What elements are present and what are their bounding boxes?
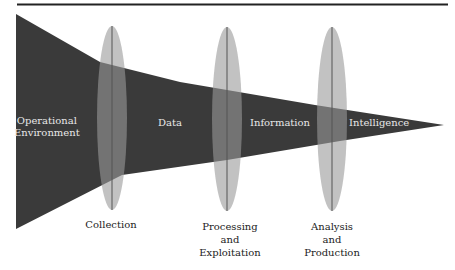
process-label-collection: Collection (85, 218, 136, 231)
process-label-line: Production (304, 246, 360, 259)
process-label-line: Analysis (304, 220, 360, 233)
stage-label-intelligence: Intelligence (349, 117, 409, 129)
lens-processing-exploitation (212, 27, 242, 211)
process-label-line: Exploitation (199, 246, 260, 259)
process-label-line: and (199, 233, 260, 246)
stage-label-data: Data (158, 117, 182, 129)
lens-collection (97, 26, 127, 210)
process-label-analysis-production: Analysis and Production (304, 220, 360, 259)
process-label-line: and (304, 233, 360, 246)
lens-analysis-production (317, 27, 347, 211)
intelligence-process-diagram: Operational Environment Data Information… (0, 0, 455, 270)
process-label-line: Collection (85, 218, 136, 231)
stage-label-line: Environment (14, 127, 80, 139)
process-label-line: Processing (199, 220, 260, 233)
stage-label-operational-environment: Operational Environment (14, 115, 80, 139)
stage-label-line: Operational (14, 115, 80, 127)
process-label-processing-exploitation: Processing and Exploitation (199, 220, 260, 259)
stage-label-information: Information (250, 117, 310, 129)
